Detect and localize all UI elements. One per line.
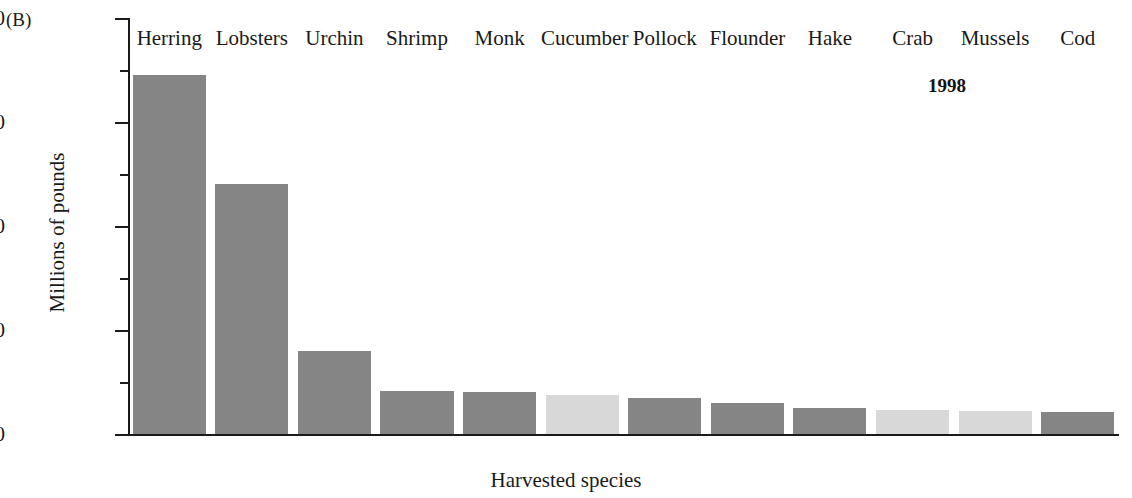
plot-area: 020406080 HerringLobstersUrchinShrimpMon… xyxy=(128,18,1119,434)
x-axis-tick-label: Urchin xyxy=(293,28,376,49)
y-axis-major-tick xyxy=(115,330,128,332)
x-axis-tick-label: Monk xyxy=(458,28,541,49)
y-axis-major-tick xyxy=(115,122,128,124)
bar xyxy=(1041,412,1114,434)
y-axis-title: Millions of pounds xyxy=(47,113,68,353)
y-axis-major-tick xyxy=(115,18,128,20)
bar xyxy=(463,392,536,434)
y-axis-tick-label: 80 xyxy=(0,8,5,29)
y-axis-major-tick xyxy=(115,226,128,228)
bar xyxy=(876,410,949,434)
x-axis-tick-label: Pollock xyxy=(624,28,707,49)
y-axis-minor-tick xyxy=(120,278,128,280)
y-axis-tick-label: 20 xyxy=(0,320,5,341)
bar xyxy=(546,395,619,434)
panel-label: (B) xyxy=(6,10,31,29)
x-axis-tick-label: Mussels xyxy=(954,28,1037,49)
y-axis-minor-tick xyxy=(120,174,128,176)
bar xyxy=(298,351,371,434)
y-axis-minor-tick xyxy=(120,70,128,72)
y-axis-minor-tick xyxy=(120,382,128,384)
x-axis-tick-label: Shrimp xyxy=(376,28,459,49)
bar xyxy=(793,408,866,434)
bar xyxy=(215,184,288,434)
bar xyxy=(711,403,784,434)
figure-panel-b: (B) Millions of pounds 020406080 Herring… xyxy=(0,0,1132,498)
x-axis-tick-label: Cucumber xyxy=(541,28,624,49)
y-axis-line xyxy=(128,18,130,435)
y-axis-tick-label: 40 xyxy=(0,216,5,237)
x-axis-tick-label: Crab xyxy=(871,28,954,49)
bar xyxy=(628,398,701,434)
x-axis-tick-label: Flounder xyxy=(706,28,789,49)
x-axis-tick-label: Herring xyxy=(128,28,211,49)
bar xyxy=(133,75,206,434)
x-axis-tick-label: Cod xyxy=(1036,28,1119,49)
y-axis-tick-label: 60 xyxy=(0,112,5,133)
x-axis-line xyxy=(128,434,1119,436)
y-axis-major-tick xyxy=(115,434,128,436)
x-axis-tick-label: Hake xyxy=(789,28,872,49)
year-annotation: 1998 xyxy=(928,76,966,95)
x-axis-title: Harvested species xyxy=(0,470,1132,491)
bar xyxy=(959,411,1032,434)
bar xyxy=(380,391,453,434)
x-axis-tick-label: Lobsters xyxy=(211,28,294,49)
y-axis-tick-label: 0 xyxy=(0,424,5,445)
